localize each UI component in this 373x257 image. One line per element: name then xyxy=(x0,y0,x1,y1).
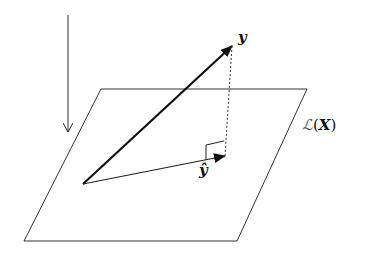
label-y: y xyxy=(238,28,247,46)
matrix-x: X xyxy=(319,116,331,134)
projection-dotted-line xyxy=(225,46,232,156)
label-column-space: ℒ(X) xyxy=(302,116,336,134)
paren-close: ) xyxy=(331,116,337,134)
projection-diagram: y ŷ ℒ(X) xyxy=(0,0,373,257)
vector-y xyxy=(83,46,232,184)
script-l: ℒ xyxy=(302,116,313,134)
plane-parallelogram xyxy=(24,89,307,241)
label-y-hat: ŷ xyxy=(199,161,208,179)
